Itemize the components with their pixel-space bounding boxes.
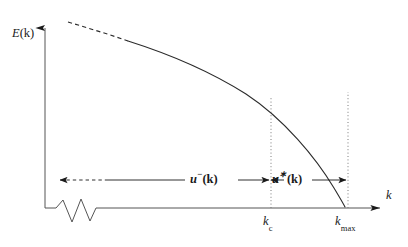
y-axis-label: E(k) [12,26,34,41]
tick-label-kc: kc [263,214,272,231]
annotation-u-minus-superscript: − [197,169,202,179]
spectrum-curve-dashed [68,22,128,41]
tick-label-kmax-subscript: max [341,223,356,233]
tick-label-kc-subscript: c [269,223,273,233]
tick-label-kc-base: k [263,214,269,228]
y-axis-label-symbol: E [12,26,20,40]
spectrum-curve-solid [128,41,345,207]
x-axis-break-zigzag [56,199,96,222]
annotation-u-minus: u−(k) [190,170,218,187]
tick-label-kmax-base: k [335,214,341,228]
annotation-u-star-base: u [272,172,279,186]
figure-canvas [0,0,408,247]
y-axis-label-argument: (k) [20,26,35,40]
tick-label-kmax: kmax [335,214,355,231]
annotation-u-star-superscript: ∗ [279,169,287,179]
annotation-u-minus-base: u [190,172,197,186]
x-axis-label: k [386,188,392,203]
annotation-u-star: u∗(k) [272,170,302,187]
x-axis [45,199,380,222]
energy-spectrum-figure: E(k) k kc kmax u−(k) u∗(k) [0,0,408,247]
annotation-u-star-argument: (k) [287,172,302,186]
annotation-u-minus-argument: (k) [202,172,217,186]
